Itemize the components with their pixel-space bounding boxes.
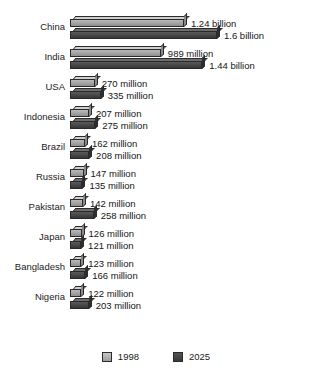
chart-row: Indonesia207 million275 million	[0, 104, 312, 134]
category-label: Japan	[0, 231, 65, 242]
bar-1998-usa[interactable]	[70, 76, 95, 87]
bar-side-face	[81, 235, 84, 249]
category-label: India	[0, 51, 65, 62]
category-label: Russia	[0, 171, 65, 182]
bar-side-face	[85, 133, 88, 147]
bar-side-face	[85, 265, 88, 279]
bar-side-face	[89, 295, 92, 309]
legend-label-1998: 1998	[118, 351, 139, 362]
value-label: 203 million	[96, 300, 141, 311]
bar-front-face	[70, 31, 217, 39]
dark-gray-swatch-icon	[173, 352, 183, 362]
bar-front-face	[70, 241, 81, 249]
chart-row: Russia147 million135 million	[0, 164, 312, 194]
value-label: 121 million	[88, 240, 133, 251]
chart-legend: 1998 2025	[0, 351, 312, 362]
bar-side-face	[101, 85, 104, 99]
chart-row: Pakistan142 million258 million	[0, 194, 312, 224]
bar-side-face	[89, 103, 92, 117]
bar-2025-pakistan[interactable]	[70, 208, 94, 219]
chart-row: Nigeria122 million203 million	[0, 284, 312, 314]
bar-front-face	[70, 121, 95, 129]
bar-front-face	[70, 169, 84, 177]
bar-front-face	[70, 61, 202, 69]
chart-row: Brazil162 million208 million	[0, 134, 312, 164]
bar-side-face	[81, 253, 84, 267]
bar-front-face	[70, 199, 83, 207]
value-label: 162 million	[92, 138, 137, 149]
chart-row: Bangladesh123 million166 million	[0, 254, 312, 284]
bar-front-face	[70, 289, 81, 297]
bar-side-face	[202, 55, 205, 69]
category-label: Indonesia	[0, 111, 65, 122]
category-label: Brazil	[0, 141, 65, 152]
bar-front-face	[70, 301, 89, 309]
value-label: 335 million	[108, 90, 153, 101]
bar-side-face	[83, 193, 86, 207]
category-label: China	[0, 21, 65, 32]
bar-1998-bangladesh[interactable]	[70, 256, 81, 267]
chart-row: China1.24 billion1.6 billion	[0, 14, 312, 44]
category-label: Pakistan	[0, 201, 65, 212]
bar-2025-russia[interactable]	[70, 178, 82, 189]
bar-side-face	[94, 205, 97, 219]
bar-1998-japan[interactable]	[70, 226, 82, 237]
value-label: 126 million	[89, 228, 134, 239]
value-label: 275 million	[102, 120, 147, 131]
bar-1998-indonesia[interactable]	[70, 106, 89, 117]
value-label: 166 million	[92, 270, 137, 281]
legend-label-2025: 2025	[189, 351, 210, 362]
bar-front-face	[70, 139, 85, 147]
chart-row: USA270 million335 million	[0, 74, 312, 104]
value-label: 147 million	[91, 168, 136, 179]
bar-1998-russia[interactable]	[70, 166, 84, 177]
bar-side-face	[95, 115, 98, 129]
category-label: Bangladesh	[0, 261, 65, 272]
legend-item-1998[interactable]: 1998	[102, 351, 139, 362]
value-label: 207 million	[96, 108, 141, 119]
bar-front-face	[70, 109, 89, 117]
value-label: 123 million	[88, 258, 133, 269]
bar-side-face	[89, 145, 92, 159]
bar-2025-japan[interactable]	[70, 238, 81, 249]
value-label: 1.6 billion	[224, 30, 264, 41]
category-label: USA	[0, 81, 65, 92]
bar-2025-brazil[interactable]	[70, 148, 89, 159]
bar-2025-china[interactable]	[70, 28, 217, 39]
bar-side-face	[217, 25, 220, 39]
bar-side-face	[95, 73, 98, 87]
category-label: Nigeria	[0, 291, 65, 302]
bar-2025-indonesia[interactable]	[70, 118, 95, 129]
bar-front-face	[70, 79, 95, 87]
bar-side-face	[184, 13, 187, 27]
bar-1998-brazil[interactable]	[70, 136, 85, 147]
chart-row: India989 million1.44 billion	[0, 44, 312, 74]
bar-front-face	[70, 91, 101, 99]
bar-2025-bangladesh[interactable]	[70, 268, 85, 279]
population-bar-chart: China1.24 billion1.6 billionIndia989 mil…	[0, 0, 312, 375]
bar-side-face	[81, 283, 84, 297]
chart-row: Japan126 million121 million	[0, 224, 312, 254]
bar-2025-usa[interactable]	[70, 88, 101, 99]
bar-front-face	[70, 151, 89, 159]
bar-side-face	[82, 175, 85, 189]
bar-front-face	[70, 259, 81, 267]
bar-front-face	[70, 181, 82, 189]
chart-plot-area: China1.24 billion1.6 billionIndia989 mil…	[0, 14, 312, 314]
bar-front-face	[70, 229, 82, 237]
light-gray-swatch-icon	[102, 352, 112, 362]
bar-2025-nigeria[interactable]	[70, 298, 89, 309]
legend-item-2025[interactable]: 2025	[173, 351, 210, 362]
value-label: 270 million	[102, 78, 147, 89]
bar-front-face	[70, 271, 85, 279]
bar-1998-china[interactable]	[70, 16, 184, 27]
bar-1998-india[interactable]	[70, 46, 161, 57]
bar-1998-pakistan[interactable]	[70, 196, 83, 207]
value-label: 135 million	[89, 180, 134, 191]
bar-2025-india[interactable]	[70, 58, 202, 69]
bar-front-face	[70, 49, 161, 57]
bar-1998-nigeria[interactable]	[70, 286, 81, 297]
bar-front-face	[70, 19, 184, 27]
bar-side-face	[161, 43, 164, 57]
value-label: 208 million	[96, 150, 141, 161]
